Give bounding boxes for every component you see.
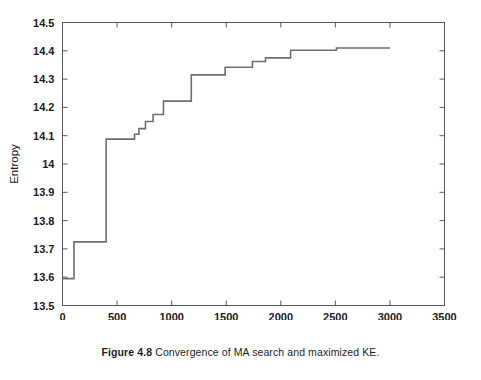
x-tick-label: 2500 <box>323 311 347 321</box>
figure-caption-label: Figure 4.8 <box>102 346 153 358</box>
y-tick-label: 13.7 <box>33 243 54 255</box>
series-line <box>63 48 390 279</box>
y-tick-label: 13.5 <box>33 300 54 312</box>
y-tick-label: 14.2 <box>33 101 54 113</box>
x-axis: 0500100015002000250030003500 <box>59 23 456 321</box>
figure-caption-text: Convergence of MA search and maximized K… <box>155 346 379 358</box>
axis-frame <box>63 23 445 306</box>
x-tick-label: 3500 <box>432 311 456 321</box>
x-tick-label: 0 <box>59 311 65 321</box>
x-tick-label: 2000 <box>269 311 293 321</box>
x-tick-label: 1000 <box>159 311 183 321</box>
y-axis: 13.513.613.713.813.91414.114.214.314.414… <box>33 17 444 312</box>
chart-plot-area: 13.513.613.713.813.91414.114.214.314.414… <box>0 0 481 320</box>
y-axis-title: Entropy <box>8 144 20 184</box>
y-tick-label: 13.9 <box>33 186 54 198</box>
y-tick-label: 14 <box>42 158 55 170</box>
plot-frame-rect <box>63 23 445 306</box>
y-tick-label: 14.3 <box>33 73 54 85</box>
figure-container: 13.513.613.713.813.91414.114.214.314.414… <box>0 0 481 380</box>
x-tick-label: 500 <box>108 311 126 321</box>
y-tick-label: 14.1 <box>33 130 54 142</box>
figure-caption: Figure 4.8 Convergence of MA search and … <box>0 345 481 359</box>
entropy-convergence-chart: 13.513.613.713.813.91414.114.214.314.414… <box>0 0 481 320</box>
data-series-group <box>63 48 390 279</box>
y-tick-label: 13.6 <box>33 271 54 283</box>
y-tick-label: 14.4 <box>33 45 55 57</box>
x-tick-label: 1500 <box>214 311 238 321</box>
y-tick-label: 14.5 <box>33 17 54 29</box>
y-tick-label: 13.8 <box>33 215 54 227</box>
x-tick-label: 3000 <box>378 311 402 321</box>
